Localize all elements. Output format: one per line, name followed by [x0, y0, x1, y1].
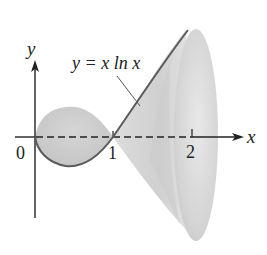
solid-of-revolution-diagram: y x 0 1 2 y = x ln x: [0, 0, 267, 255]
tick-label-0: 0: [16, 143, 25, 163]
x-axis-label: x: [246, 126, 256, 147]
tick-label-2: 2: [186, 142, 195, 162]
tick-label-1: 1: [108, 143, 117, 163]
cone-end-cap: [174, 29, 218, 241]
y-axis-label: y: [25, 38, 36, 59]
curve-equation-label: y = x ln x: [70, 53, 140, 73]
label-leader-line: [117, 76, 140, 106]
